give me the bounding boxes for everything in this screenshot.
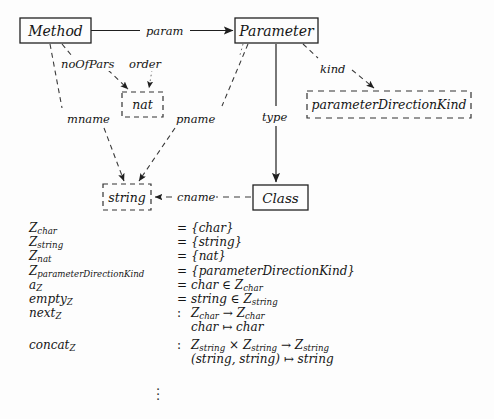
equation-operator: = [177, 249, 187, 263]
edge-label-param: param [145, 24, 184, 38]
node-label-parameterdirectionkind: parameterDirectionKind [307, 97, 471, 112]
equation-lhs: Zchar [29, 221, 57, 236]
node-label-nat: nat [122, 97, 163, 112]
equation-row: char ↦ char [29, 320, 469, 334]
equation-row: nextZ : Zchar → Zchar [29, 306, 469, 320]
equation-row: Zchar = {char} [29, 221, 469, 235]
edge-label-pname: pname [175, 112, 216, 126]
node-label-method: Method [20, 23, 91, 39]
edge-label-mname: mname [66, 112, 111, 126]
equation-rhs: char ∈ Zchar [191, 278, 263, 293]
equation-operator: = [177, 292, 187, 306]
equation-rhs: {char} [191, 221, 234, 236]
equation-row: ZparameterDirectionKind = {parameterDire… [29, 264, 469, 278]
edge-order [149, 44, 243, 88]
equations-continuation-dots: ... [156, 383, 160, 398]
equation-row: aZ = char ∈ Zchar [29, 278, 469, 292]
edge-label-type: type [261, 110, 288, 124]
equation-lhs: Znat [29, 249, 52, 264]
equation-rhs: string ∈ Zstring [191, 292, 278, 307]
equation-rhs: Zstring × Zstring → Zstring [191, 338, 329, 353]
equation-lhs: ZparameterDirectionKind [29, 264, 144, 279]
node-label-class: Class [253, 190, 308, 206]
signature-equations: Zchar = {char} Zstring = {string} Znat =… [29, 221, 469, 366]
equation-rhs: Zchar → Zchar [191, 306, 265, 321]
equation-rhs: {nat} [191, 249, 226, 264]
equation-lhs: aZ [29, 278, 42, 293]
equation-lhs: concatZ [29, 338, 75, 353]
equation-rhs: {string} [191, 235, 242, 250]
equation-operator: : [177, 338, 181, 352]
equation-row: emptyZ = string ∈ Zstring [29, 292, 469, 306]
equation-lhs: emptyZ [29, 292, 73, 307]
equation-lhs: Zstring [29, 235, 63, 250]
equation-operator: = [177, 221, 187, 235]
equation-operator: = [177, 278, 187, 292]
node-label-string: string [103, 190, 151, 205]
equation-row: Znat = {nat} [29, 249, 469, 263]
edge-label-order: order [128, 57, 162, 71]
edge-label-cname: cname [176, 190, 216, 204]
equation-row: Zstring = {string} [29, 235, 469, 249]
equation-rhs: (string, string) ↦ string [191, 352, 334, 366]
equation-operator: : [177, 306, 181, 320]
equation-rhs: {parameterDirectionKind} [191, 264, 355, 279]
equation-operator: = [177, 264, 187, 278]
equation-row: (string, string) ↦ string [29, 352, 469, 366]
equation-row: concatZ : Zstring × Zstring → Zstring [29, 335, 469, 352]
edge-label-noofpars: noOfPars [60, 57, 116, 71]
node-label-parameter: Parameter [235, 23, 318, 39]
figure-page: Method Parameter nat parameterDirectionK… [0, 0, 494, 419]
equation-rhs: char ↦ char [191, 320, 263, 334]
equation-operator: = [177, 235, 187, 249]
edge-label-kind: kind [319, 62, 346, 76]
equation-lhs: nextZ [29, 306, 61, 321]
